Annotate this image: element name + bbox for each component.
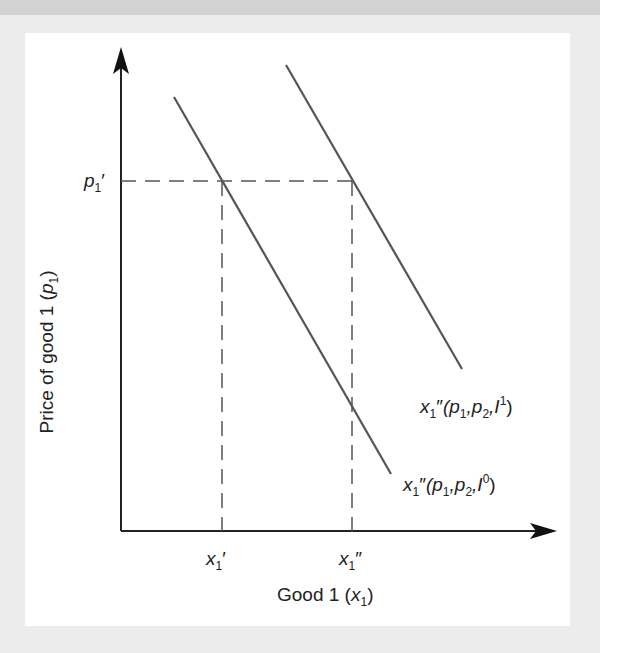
y-axis-label-var: p	[36, 284, 57, 295]
x-axis-label: Good 1 (x1)	[277, 585, 373, 608]
price-var: p	[84, 170, 95, 191]
curve-label-close: )	[506, 396, 512, 417]
curve-label-prime: ″	[436, 396, 443, 417]
curve-label-var: x	[403, 474, 413, 495]
x-tick-var: x	[206, 548, 216, 569]
curve-label-prime: ″	[419, 474, 426, 495]
curve-label-var: x	[420, 396, 430, 417]
curve-label-income-1: x1″(p1,p2,I1)	[420, 395, 513, 420]
curve-label-arg3: ,I	[472, 474, 483, 495]
curve-label-arg2: ,p	[467, 396, 483, 417]
curve-label-arg1-sub: 1	[443, 485, 450, 499]
price-tick-label: p1′	[84, 171, 105, 194]
price-prime: ′	[101, 170, 105, 191]
x-tick-label-prime: x1′	[206, 549, 226, 572]
y-axis-label-close: )	[36, 270, 57, 276]
curve-label-arg1: (p	[426, 474, 443, 495]
x-tick-var: x	[339, 548, 349, 569]
curve-label-arg2: ,p	[450, 474, 466, 495]
y-axis-label-sub: 1	[47, 277, 61, 284]
curve-label-arg1: (p	[443, 396, 460, 417]
x-axis-label-close: )	[367, 584, 373, 605]
y-axis-label: Price of good 1 (p1)	[36, 270, 61, 433]
curve-label-income-0: x1″(p1,p2,I0)	[403, 473, 496, 498]
y-axis-label-text: Price of good 1 (	[36, 294, 57, 433]
x-tick-prime: ″	[355, 548, 362, 569]
x-axis-label-var: x	[351, 584, 361, 605]
x-axis-label-text: Good 1 (	[277, 584, 351, 605]
curve-label-arg1-sub: 1	[460, 407, 467, 421]
curve-label-arg3: ,I	[489, 396, 500, 417]
demand-curve-income-1	[286, 65, 462, 369]
demand-curve-income-0	[174, 97, 391, 474]
demand-diagram	[0, 0, 620, 653]
x-tick-prime: ′	[222, 548, 226, 569]
x-tick-label-double-prime: x1″	[339, 549, 362, 572]
curve-label-close: )	[489, 474, 495, 495]
